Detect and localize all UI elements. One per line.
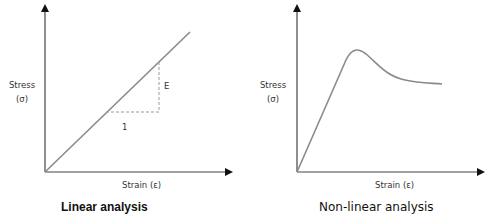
y-axis-symbol: (σ) <box>4 94 40 104</box>
y-axis-label: Stress <box>4 80 40 90</box>
nonlinear-curve <box>297 50 442 172</box>
slope-label: E <box>164 81 169 91</box>
y-axis-symbol: (σ) <box>254 94 292 104</box>
panel-title-linear: Linear analysis <box>61 200 148 214</box>
x-axis-label: Strain (ε) <box>375 180 414 190</box>
y-axis-label: Stress <box>254 80 292 90</box>
panel-title-nonlinear: Non-linear analysis <box>319 200 434 214</box>
x-axis-label: Strain (ε) <box>122 180 161 190</box>
run-label: 1 <box>122 122 127 132</box>
linear-curve <box>45 32 190 172</box>
nonlinear-panel <box>297 6 483 172</box>
linear-panel <box>45 6 231 172</box>
